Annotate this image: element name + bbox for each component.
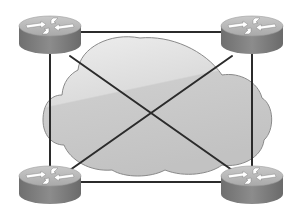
router-icon-top-left bbox=[19, 16, 81, 54]
cloud-icon bbox=[43, 37, 272, 176]
router-icon-top-right bbox=[221, 16, 283, 54]
diagram-canvas bbox=[0, 0, 303, 217]
router-icon-bottom-left bbox=[19, 166, 81, 204]
network-diagram bbox=[0, 0, 303, 217]
router-icon-bottom-right bbox=[221, 166, 283, 204]
